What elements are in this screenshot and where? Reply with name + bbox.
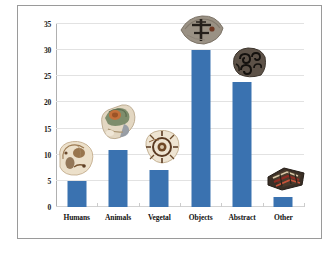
category-label-abstract: Abstract xyxy=(228,213,255,222)
category-tick xyxy=(304,203,305,207)
category-label-vegetal: Vegetal xyxy=(148,213,171,222)
chart-frame: 05101520253035 HumansAnimalsVegetalObjec… xyxy=(17,5,322,239)
value-axis-tick-label: 35 xyxy=(44,20,51,29)
plot-area: 05101520253035 HumansAnimalsVegetalObjec… xyxy=(56,24,304,207)
bar-group-vegetal[interactable]: Vegetal xyxy=(139,24,180,207)
category-label-other: Other xyxy=(274,213,293,222)
category-label-animals: Animals xyxy=(105,213,131,222)
value-axis-tick-label: 0 xyxy=(47,203,51,212)
bar-abstract[interactable] xyxy=(232,82,251,207)
bar-humans[interactable] xyxy=(67,181,86,207)
bar-group-other[interactable]: Other xyxy=(263,24,304,207)
bar-animals[interactable] xyxy=(108,150,127,208)
category-label-humans: Humans xyxy=(63,213,90,222)
category-label-objects: Objects xyxy=(189,213,213,222)
bar-group-animals[interactable]: Animals xyxy=(97,24,138,207)
bar-objects[interactable] xyxy=(191,50,210,207)
bar-group-objects[interactable]: Objects xyxy=(180,24,221,207)
value-axis-tick-label: 30 xyxy=(44,46,51,55)
bar-vegetal[interactable] xyxy=(150,170,169,207)
value-axis-tick-label: 20 xyxy=(44,98,51,107)
value-axis-tick-label: 5 xyxy=(47,176,51,185)
value-axis-tick-label: 25 xyxy=(44,72,51,81)
bar-group-humans[interactable]: Humans xyxy=(56,24,97,207)
value-axis-tick-label: 10 xyxy=(44,150,51,159)
value-axis-tick-label: 15 xyxy=(44,124,51,133)
bar-other[interactable] xyxy=(274,197,293,207)
bar-group-abstract[interactable]: Abstract xyxy=(221,24,262,207)
